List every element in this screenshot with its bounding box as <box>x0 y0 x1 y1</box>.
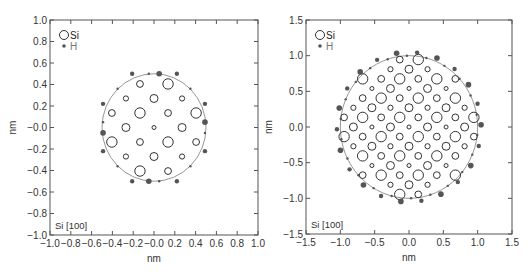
si-atom <box>349 123 357 131</box>
si-atom <box>450 170 460 180</box>
si-atom <box>396 56 403 63</box>
x-tick-label: 0.0 <box>402 237 416 248</box>
y-axis-label: nm <box>263 120 274 134</box>
right-chart: −1.5−1.0−0.50.00.51.01.51.51.00.50.0−0.5… <box>0 0 530 279</box>
si-atom <box>395 112 405 122</box>
h-atom <box>475 102 479 106</box>
si-atom <box>415 114 422 121</box>
h-atom <box>406 54 408 56</box>
h-atom <box>458 77 460 79</box>
si-atom <box>450 93 460 103</box>
legend-si-marker <box>316 31 325 40</box>
si-atom <box>433 95 440 102</box>
h-atom <box>469 94 471 96</box>
h-atom <box>398 199 404 205</box>
si-atom <box>413 170 423 180</box>
si-atom <box>388 144 393 149</box>
si-atom <box>407 164 411 168</box>
si-atom <box>415 191 422 198</box>
h-atom <box>438 191 444 197</box>
si-atom <box>351 105 356 110</box>
si-atom <box>386 84 394 92</box>
h-atom <box>361 182 367 188</box>
si-atom <box>432 74 442 84</box>
si-atom <box>405 142 413 150</box>
x-tick-label: 1.5 <box>505 237 519 248</box>
si-atom <box>415 152 422 159</box>
si-atom <box>376 170 386 180</box>
si-atom <box>368 142 376 150</box>
h-atom <box>394 50 400 56</box>
h-atom <box>475 114 477 116</box>
si-atom <box>433 133 440 140</box>
si-atom <box>376 93 386 103</box>
si-atom <box>395 74 405 84</box>
h-atom <box>347 167 351 171</box>
si-atom <box>413 93 423 103</box>
h-atom <box>357 174 359 176</box>
si-atom <box>378 114 385 121</box>
si-atom <box>444 86 448 90</box>
si-atom <box>461 123 469 131</box>
h-atom <box>410 197 412 199</box>
h-atom <box>471 153 473 155</box>
h-atom <box>335 127 339 131</box>
si-atom <box>442 142 450 150</box>
si-atom <box>378 75 385 82</box>
si-atom <box>425 67 430 72</box>
h-atom <box>357 69 363 75</box>
si-atom <box>452 152 459 159</box>
y-tick-label: −0.5 <box>283 157 303 168</box>
y-tick-label: −1.0 <box>283 193 303 204</box>
h-atom <box>443 65 445 67</box>
h-atom <box>340 138 342 140</box>
si-atom <box>424 123 432 131</box>
h-atom <box>425 57 427 59</box>
si-atom <box>432 151 442 161</box>
si-atom <box>386 162 394 170</box>
si-atom <box>388 182 393 187</box>
si-atom <box>388 105 393 110</box>
si-atom <box>413 131 423 141</box>
x-tick-label: −1.0 <box>330 237 350 248</box>
si-atom <box>357 74 367 84</box>
si-atom <box>424 84 432 92</box>
si-atom <box>405 65 413 73</box>
si-atom <box>370 164 374 168</box>
h-atom <box>372 187 374 189</box>
si-atom <box>442 104 450 112</box>
legend-h-label: H <box>326 41 333 52</box>
si-atom <box>368 104 376 112</box>
legend-h-marker <box>318 44 322 48</box>
si-atom <box>444 164 448 168</box>
si-atom <box>425 105 430 110</box>
si-atom <box>351 144 356 149</box>
si-atom <box>444 125 448 129</box>
si-atom <box>359 133 366 140</box>
h-atom <box>369 67 371 69</box>
si-atom <box>378 152 385 159</box>
h-atom <box>476 134 478 136</box>
si-atom <box>388 67 393 72</box>
si-atom <box>433 172 440 179</box>
si-atom <box>341 114 348 121</box>
si-atom <box>425 144 430 149</box>
si-atom <box>396 95 403 102</box>
y-tick-label: 1.5 <box>289 15 303 26</box>
legend-si-label: Si <box>326 30 335 41</box>
si-atom <box>386 123 394 131</box>
h-atom <box>355 81 357 83</box>
si-atom <box>357 112 367 122</box>
si-atom <box>370 125 374 129</box>
si-atom <box>359 172 366 179</box>
si-atom <box>359 95 366 102</box>
si-atom <box>407 125 411 129</box>
x-tick-label: −0.5 <box>365 237 385 248</box>
h-atom <box>386 58 388 60</box>
si-atom <box>424 162 432 170</box>
y-tick-label: −1.5 <box>283 229 303 240</box>
si-atom <box>396 172 403 179</box>
h-atom <box>452 67 456 71</box>
si-atom <box>396 133 403 140</box>
si-atom <box>357 151 367 161</box>
